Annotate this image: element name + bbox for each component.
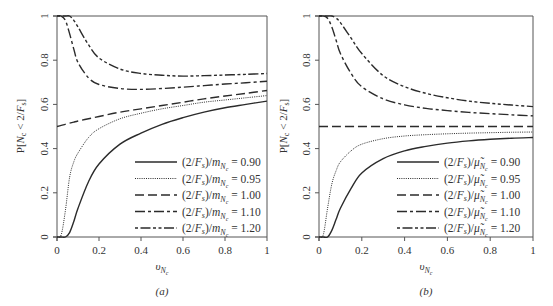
y-tick-label: 0 — [300, 234, 312, 240]
x-tick-label: 0.8 — [218, 244, 232, 256]
panel-a: 00.20.40.60.8100.20.40.60.81P[Nc < 2/Fs]… — [14, 13, 270, 298]
y-axis-label: P[Nc < 2/Fs] — [14, 99, 28, 153]
y-tick-label: 0 — [38, 234, 50, 240]
series-group — [319, 16, 533, 238]
x-tick-label: 0.2 — [92, 244, 106, 256]
y-tick-label: 0.6 — [38, 97, 50, 111]
legend-label: (2/Fs)/mNc = 0.95 — [182, 173, 261, 189]
x-tick-label: 1 — [264, 244, 270, 256]
x-tick-label: 0 — [316, 244, 322, 256]
y-tick-label: 0.4 — [38, 141, 50, 155]
x-tick-label: 0.8 — [483, 244, 497, 256]
x-axis-label: υNc — [419, 260, 432, 276]
x-axis-label: υNc — [155, 260, 168, 276]
panel-caption: (b) — [420, 285, 433, 298]
legend-label: (2/Fs)/μ̃Nc = 1.10 — [444, 206, 520, 222]
legend-label: (2/Fs)/mNc = 1.10 — [182, 206, 261, 222]
panel-b: 00.20.40.60.8100.20.40.60.81P[Nc < 2/Fs]… — [277, 13, 536, 298]
chart-figure: 00.20.40.60.8100.20.40.60.81P[Nc < 2/Fs]… — [0, 0, 553, 306]
legend-label: (2/Fs)/μ̃Nc = 0.90 — [444, 156, 520, 172]
y-axis-label: P[Nc < 2/Fs] — [277, 99, 291, 153]
legend-label: (2/Fs)/μ̃Nc = 0.95 — [444, 173, 520, 189]
x-tick-label: 1 — [530, 244, 536, 256]
y-tick-label: 0.8 — [38, 53, 50, 67]
legend-label: (2/Fs)/μ̃Nc = 1.00 — [444, 189, 520, 205]
legend-label: (2/Fs)/mNc = 1.20 — [182, 222, 261, 238]
legend-label: (2/Fs)/mNc = 1.00 — [182, 189, 261, 205]
series-group — [57, 16, 267, 238]
x-tick-label: 0.4 — [398, 244, 412, 256]
series-line-dashdot — [319, 16, 533, 116]
x-tick-label: 0.2 — [355, 244, 369, 256]
y-tick-label: 1 — [300, 13, 312, 19]
legend: (2/Fs)/mNc = 0.90(2/Fs)/mNc = 0.95(2/Fs)… — [135, 156, 261, 238]
y-tick-label: 0.2 — [300, 186, 312, 200]
x-tick-label: 0.4 — [134, 244, 148, 256]
legend-label: (2/Fs)/mNc = 0.90 — [182, 156, 261, 172]
legend: (2/Fs)/μ̃Nc = 0.90(2/Fs)/μ̃Nc = 0.95(2/F… — [397, 156, 520, 238]
panel-caption: (a) — [156, 285, 169, 298]
series-line-dashdotdot — [57, 16, 267, 76]
x-tick-label: 0.6 — [176, 244, 190, 256]
y-tick-label: 0.2 — [38, 186, 50, 200]
series-line-dashdotdot — [319, 16, 533, 107]
x-tick-label: 0 — [54, 244, 60, 256]
y-tick-label: 1 — [38, 13, 50, 19]
y-tick-label: 0.4 — [300, 141, 312, 155]
series-line-dashed — [57, 90, 267, 126]
x-tick-label: 0.6 — [441, 244, 455, 256]
y-tick-label: 0.6 — [300, 97, 312, 111]
y-tick-label: 0.8 — [300, 53, 312, 67]
series-line-dashdot — [57, 16, 267, 90]
legend-label: (2/Fs)/μ̃Nc = 1.20 — [444, 222, 520, 238]
